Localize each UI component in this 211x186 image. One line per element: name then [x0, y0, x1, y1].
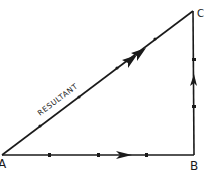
double-arrow-ac-icon — [122, 48, 146, 68]
vertex-label-b: B — [190, 159, 198, 173]
vector-triangle-diagram: A B C RESULTANT — [0, 0, 211, 186]
vertex-label-a: A — [0, 157, 7, 171]
vertex-label-c: C — [197, 8, 204, 19]
edge-ac-resultant — [2, 11, 193, 155]
